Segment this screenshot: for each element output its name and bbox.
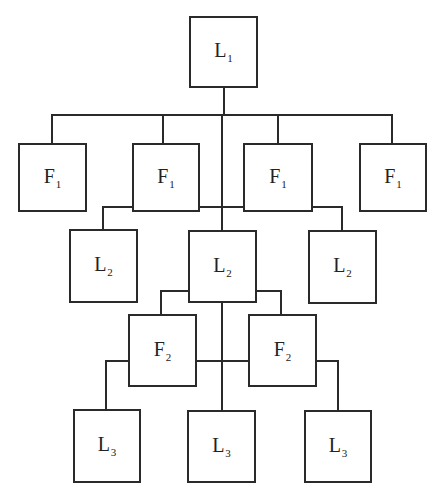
node-f2: F2 [128,314,197,387]
node-f1: F1 [359,143,427,212]
node-label: L3 [329,435,348,459]
hierarchy-diagram: L1 F1 F1 F1 F1 L2 L2 L2 F2 F2 L3 L3 L3 [0,0,438,500]
node-label: F1 [44,166,62,190]
connector-spine-lower [221,303,223,411]
node-label: F2 [274,339,292,363]
connector-drop-f2b [280,290,282,315]
node-label: L2 [94,254,113,278]
node-label: L1 [214,40,233,64]
connector-drop-l3a [105,360,107,410]
node-label: L2 [213,255,232,279]
node-l3: L3 [73,409,141,483]
node-label: L3 [212,435,231,459]
connector-l1-stem [223,88,225,116]
node-l2: L2 [69,229,138,303]
connector-drop-l2a [102,206,104,230]
node-label: F1 [157,166,175,190]
node-l3: L3 [304,410,372,483]
connector-drop-f2a [160,290,162,315]
node-label: L3 [98,434,117,458]
node-f2: F2 [248,314,317,387]
connector-drop-l2c [341,206,343,231]
node-f1: F1 [18,143,87,212]
connector-spine-upper [221,114,223,231]
connector-drop-l3c [337,360,339,411]
connector-drop-f1b [162,114,164,144]
node-l1: L1 [189,16,258,88]
node-l2: L2 [188,230,257,303]
node-label: F1 [269,166,287,190]
connector-drop-f1a [51,114,53,144]
connector-drop-f1c [277,114,279,144]
node-label: F2 [154,339,172,363]
node-label: L2 [333,255,352,279]
node-f1: F1 [243,143,313,212]
node-l2: L2 [308,230,377,304]
node-l3: L3 [187,410,256,483]
connector-drop-f1d [391,114,393,144]
node-f1: F1 [132,143,200,212]
node-label: F1 [384,166,402,190]
